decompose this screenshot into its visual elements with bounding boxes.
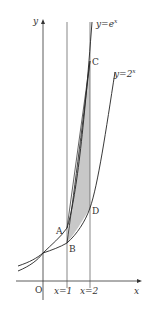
x-axis-arrow-icon: [137, 279, 142, 283]
curve-exp-e: [18, 22, 92, 271]
y-axis-arrow-icon: [41, 19, 45, 24]
line-x1-label: x=1: [54, 286, 72, 296]
y-axis-label: y: [32, 16, 39, 26]
point-c-label: C: [92, 57, 99, 67]
point-a-label: A: [55, 226, 63, 236]
curve-exp-2-label: y=2x: [113, 67, 136, 79]
point-d-label: D: [92, 206, 99, 216]
curve-exp-2: [18, 72, 115, 266]
point-b-label: B: [69, 244, 76, 254]
diagram: y x O x=1 x=2 y=ex y=2x A B C D: [0, 0, 152, 316]
curve-exp-e-label: y=ex: [95, 17, 118, 29]
line-x2-label: x=2: [80, 286, 99, 296]
origin-label: O: [35, 285, 42, 295]
x-axis-label: x: [134, 286, 139, 296]
